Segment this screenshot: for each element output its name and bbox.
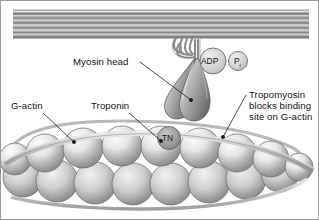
label-troponin: Troponin: [91, 101, 129, 112]
label-myosin-head: Myosin head: [73, 57, 129, 68]
thick-filament: [13, 10, 309, 38]
node-label-pi-sub: i: [240, 62, 241, 68]
label-g-actin: G-actin: [11, 101, 43, 112]
node-label-pi: Pi: [234, 56, 241, 68]
label-tropomyosin-line3: site on G-actin: [249, 112, 312, 123]
label-tropomyosin-line2: blocks binding: [249, 101, 311, 112]
label-tropomyosin-line1: Tropomyosin: [249, 90, 305, 101]
node-label-tn: TN: [162, 133, 173, 143]
figure-canvas: Myosin head G-actin Troponin Tropomyosin…: [0, 0, 319, 220]
node-label-adp: ADP: [201, 56, 218, 66]
actin-filament: [1, 121, 313, 209]
